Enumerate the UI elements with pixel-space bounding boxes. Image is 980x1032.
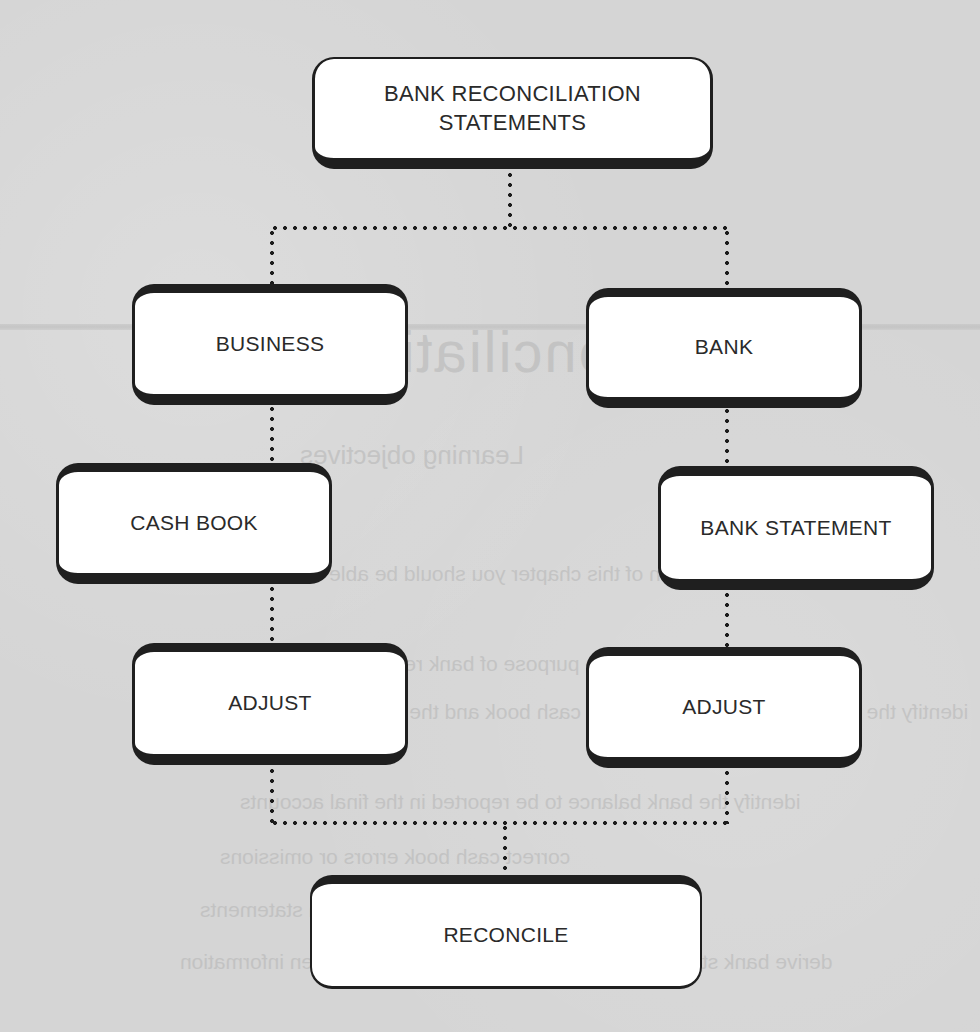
connector-bank-statement-to-adjust — [725, 590, 729, 648]
connector-bottom-horizontal — [270, 821, 730, 825]
connector-bank-to-bank-statement — [725, 406, 729, 466]
connector-adjust-right-down — [725, 768, 729, 824]
connector-business-to-cash-book — [270, 404, 274, 464]
node-cash-book: CASH BOOK — [56, 463, 332, 584]
node-label: RECONCILE — [433, 921, 578, 948]
node-label: BANK RECONCILIATION — [384, 80, 641, 109]
connector-cash-book-to-adjust — [270, 584, 274, 644]
node-label: STATEMENTS — [384, 109, 641, 138]
node-label: ADJUST — [672, 693, 775, 720]
connector-to-bank — [725, 228, 729, 290]
node-label: BUSINESS — [206, 330, 335, 357]
node-bank-statement: BANK STATEMENT — [658, 466, 934, 590]
node-label: ADJUST — [218, 689, 321, 716]
connector-to-reconcile — [503, 823, 507, 875]
node-reconcile: RECONCILE — [310, 875, 702, 989]
node-adjust-bank-statement: ADJUST — [586, 647, 862, 768]
node-business: BUSINESS — [132, 284, 408, 405]
node-label: BANK — [685, 333, 763, 360]
node-label: CASH BOOK — [120, 509, 268, 536]
node-bank: BANK — [586, 288, 862, 408]
node-adjust-cash-book: ADJUST — [132, 643, 408, 765]
connector-to-business — [270, 228, 274, 286]
connector-adjust-left-down — [270, 766, 274, 824]
node-bank-reconciliation-statements: BANK RECONCILIATION STATEMENTS — [312, 57, 713, 169]
node-label: BANK STATEMENT — [690, 514, 901, 541]
connector-top-horizontal — [270, 226, 730, 230]
connector-root-down — [508, 170, 512, 228]
